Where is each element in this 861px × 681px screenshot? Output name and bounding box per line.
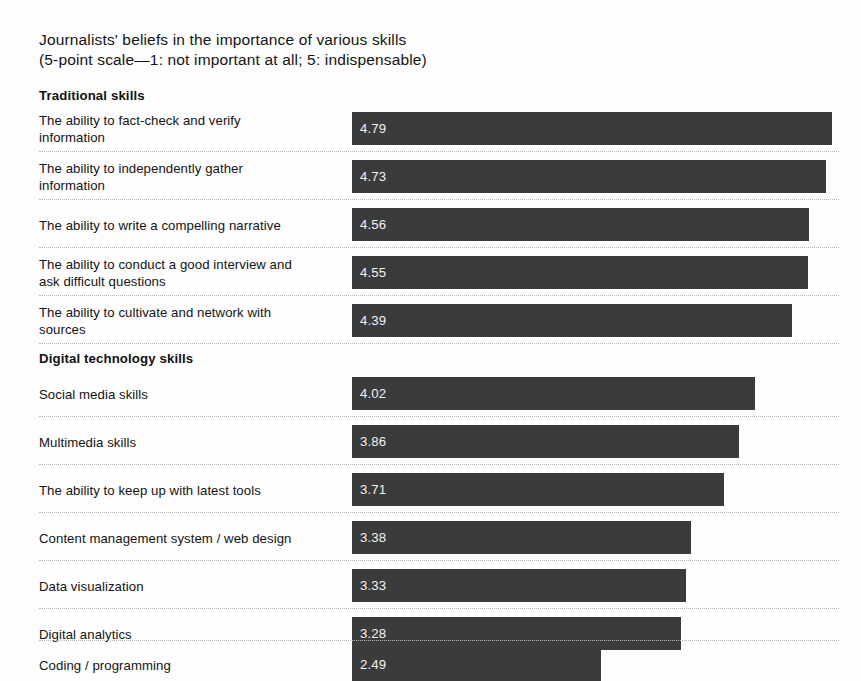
bar-row-label: Content management system / web design (39, 530, 339, 547)
bar (352, 208, 809, 241)
bar (352, 304, 792, 337)
bar-row-label: The ability to write a compelling narrat… (39, 217, 339, 234)
row-separator (39, 151, 839, 153)
row-separator (39, 247, 839, 249)
bar-value-label: 3.38 (360, 521, 386, 554)
bar-row-label: The ability to independently gatherinfor… (39, 160, 339, 194)
bar-value-label: 3.33 (360, 569, 386, 602)
bar-value-label: 4.39 (360, 304, 386, 337)
bar (352, 425, 739, 458)
row-separator (39, 560, 839, 562)
bar (352, 521, 691, 554)
bar-value-label: 2.49 (360, 648, 386, 681)
bar-value-label: 4.55 (360, 256, 386, 289)
bar-value-label: 3.71 (360, 473, 386, 506)
bar-value-label: 4.02 (360, 377, 386, 410)
bar-row-label: The ability to cultivate and network wit… (39, 304, 339, 338)
row-separator (39, 295, 839, 297)
row-separator (39, 464, 839, 466)
bar (352, 569, 686, 602)
bar-row-label: Social media skills (39, 386, 339, 403)
bar-row-label-line2: information (39, 130, 105, 145)
bar (352, 377, 755, 410)
bar-value-label: 4.73 (360, 160, 386, 193)
bar-row-label: The ability to fact-check and verifyinfo… (39, 112, 339, 146)
chart-subtitle: (5-point scale—1: not important at all; … (39, 50, 739, 70)
row-separator (39, 608, 839, 610)
bar (352, 473, 724, 506)
bar-row-label: Coding / programming (39, 657, 339, 674)
bar-value-label: 4.56 (360, 208, 386, 241)
bar (352, 256, 808, 289)
bar (352, 648, 601, 681)
bar (352, 617, 681, 650)
chart-title: Journalists' beliefs in the importance o… (39, 30, 739, 50)
bar-value-label: 3.28 (360, 617, 386, 650)
bar-row-label-line2: information (39, 178, 105, 193)
chart-title-block: Journalists' beliefs in the importance o… (39, 30, 739, 70)
section-header-traditional-skills: Traditional skills (39, 88, 145, 103)
row-separator (39, 416, 839, 418)
bar-value-label: 3.86 (360, 425, 386, 458)
bar-value-label: 4.79 (360, 112, 386, 145)
bar-row-label-line2: ask difficult questions (39, 274, 166, 289)
row-separator (39, 199, 839, 201)
bar-row-label: Data visualization (39, 578, 339, 595)
row-separator (39, 343, 839, 345)
row-separator (39, 512, 839, 514)
bar (352, 112, 832, 145)
bar-row-label-line2: sources (39, 322, 86, 337)
bar-row-label: The ability to keep up with latest tools (39, 482, 339, 499)
section-header-digital-technology-skills: Digital technology skills (39, 351, 193, 366)
bar (352, 160, 826, 193)
bar-row-label: Multimedia skills (39, 434, 339, 451)
row-separator (39, 640, 839, 642)
bar-row-label: The ability to conduct a good interview … (39, 256, 339, 290)
